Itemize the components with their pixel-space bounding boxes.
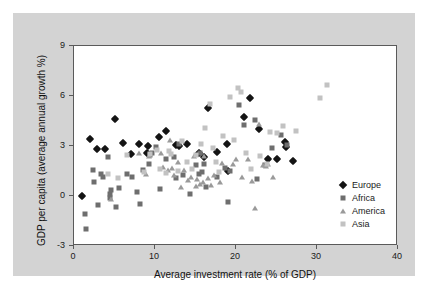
data-point-asia: [148, 151, 153, 156]
data-point-asia: [175, 169, 180, 174]
data-point-america: [270, 174, 276, 179]
x-tick-label: 20: [230, 251, 240, 261]
data-point-europe: [118, 138, 126, 146]
data-point-africa: [222, 165, 227, 170]
data-point-africa: [130, 174, 135, 179]
data-point-africa: [225, 199, 230, 204]
data-point-asia: [190, 167, 195, 172]
data-point-america: [239, 174, 245, 179]
legend-item-africa[interactable]: Africa: [338, 192, 385, 204]
data-point-europe: [223, 140, 231, 148]
data-point-asia: [141, 169, 146, 174]
legend-item-asia[interactable]: Asia: [338, 218, 385, 230]
data-point-europe: [288, 157, 296, 165]
data-point-asia: [194, 153, 199, 158]
data-point-asia: [318, 95, 323, 100]
data-point-africa: [84, 227, 89, 232]
legend: EuropeAfricaAmericaAsia: [338, 179, 385, 231]
x-axis-label: Average investment rate (% of GDP): [73, 269, 397, 280]
data-point-europe: [101, 144, 109, 152]
data-point-africa: [96, 203, 101, 208]
data-point-asia: [208, 101, 213, 106]
data-point-asia: [227, 94, 232, 99]
legend-item-europe[interactable]: Europe: [338, 179, 385, 191]
data-point-africa: [187, 191, 192, 196]
data-point-europe: [183, 140, 191, 148]
data-point-europe: [135, 140, 143, 148]
legend-label: Africa: [352, 193, 375, 203]
legend-label: Asia: [352, 219, 370, 229]
legend-label: America: [352, 206, 385, 216]
data-point-africa: [92, 179, 97, 184]
data-point-america: [136, 150, 142, 155]
data-point-america: [201, 154, 207, 159]
data-point-america: [169, 165, 175, 170]
data-point-asia: [106, 171, 111, 176]
data-point-africa: [114, 204, 119, 209]
y-tick-label: 9: [43, 40, 65, 50]
data-point-asia: [264, 162, 269, 167]
data-point-europe: [161, 127, 169, 135]
data-point-asia: [184, 159, 189, 164]
x-tick: [73, 245, 74, 249]
data-point-europe: [246, 93, 254, 101]
data-point-asia: [243, 150, 248, 155]
x-tick-label: 0: [70, 251, 75, 261]
diamond-marker-icon: [338, 180, 348, 190]
x-tick: [154, 245, 155, 249]
data-point-africa: [117, 185, 122, 190]
y-tick-label: 6: [43, 90, 65, 100]
y-tick-label: 3: [43, 140, 65, 150]
y-tick: [69, 195, 73, 196]
y-tick: [69, 145, 73, 146]
data-point-asia: [248, 167, 253, 172]
data-point-asia: [199, 142, 204, 147]
data-point-africa: [237, 103, 242, 108]
data-point-america: [108, 196, 114, 201]
y-tick: [69, 245, 73, 246]
data-point-europe: [155, 133, 163, 141]
data-point-asia: [274, 130, 279, 135]
square-marker-icon: [338, 193, 348, 203]
chart-figure: Average investment rate (% of GDP) GDP p…: [0, 0, 428, 289]
data-point-america: [219, 160, 225, 165]
data-point-europe: [86, 134, 94, 142]
data-point-africa: [82, 212, 87, 217]
data-point-africa: [163, 157, 168, 162]
data-point-america: [249, 179, 255, 184]
data-point-asia: [268, 129, 273, 134]
data-point-africa: [138, 202, 143, 207]
data-point-america: [208, 183, 214, 188]
data-point-africa: [157, 186, 162, 191]
data-point-asia: [124, 153, 129, 158]
data-point-asia: [213, 159, 218, 164]
data-point-asia: [280, 124, 285, 129]
data-point-europe: [78, 192, 86, 200]
data-point-africa: [202, 162, 207, 167]
data-point-africa: [269, 145, 274, 150]
data-point-asia: [324, 83, 329, 88]
legend-item-america[interactable]: America: [338, 205, 385, 217]
data-point-africa: [90, 168, 95, 173]
data-point-africa: [228, 169, 233, 174]
data-point-america: [233, 156, 239, 161]
y-axis-label: GDP per capita (average annual growth %): [36, 51, 47, 251]
data-point-asia: [157, 167, 162, 172]
data-point-africa: [199, 169, 204, 174]
data-point-africa: [285, 143, 290, 148]
data-point-africa: [135, 189, 140, 194]
data-point-america: [205, 175, 211, 180]
data-point-asia: [166, 149, 171, 154]
data-point-africa: [242, 123, 247, 128]
data-point-asia: [203, 125, 208, 130]
y-tick-label: -3: [43, 240, 65, 250]
data-point-america: [252, 205, 258, 210]
data-point-africa: [147, 162, 152, 167]
data-point-asia: [115, 175, 120, 180]
y-tick: [69, 95, 73, 96]
data-point-africa: [106, 154, 111, 159]
data-point-asia: [179, 139, 184, 144]
data-point-america: [245, 157, 251, 162]
data-point-america: [181, 168, 187, 173]
x-tick-label: 10: [149, 251, 159, 261]
